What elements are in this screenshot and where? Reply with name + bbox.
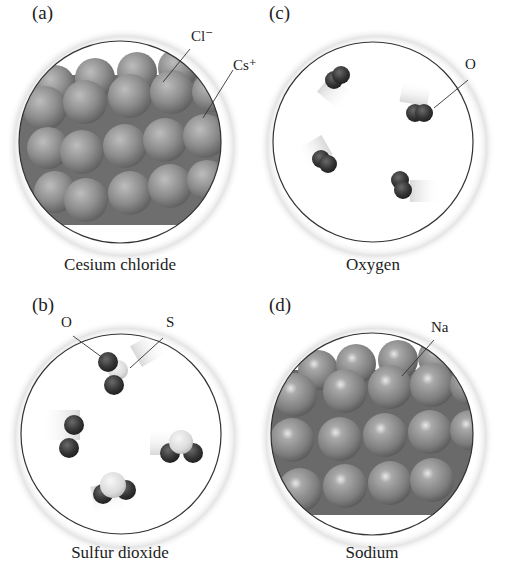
panel-c-letter: (c) <box>269 2 290 24</box>
label-cesium-ion: Cs⁺ <box>233 56 257 74</box>
panel-d-letter: (d) <box>269 294 291 316</box>
caption-oxygen: Oxygen <box>263 255 483 275</box>
label-chloride-ion: Cl⁻ <box>191 27 213 45</box>
caption-cesium-chloride: Cesium chloride <box>10 255 230 275</box>
oxygen-circle <box>273 42 473 242</box>
panel-a-letter: (a) <box>32 2 53 24</box>
panel-b-letter: (b) <box>32 294 54 316</box>
label-oxygen-in-so2: O <box>61 314 72 331</box>
label-sodium-atom: Na <box>431 319 449 336</box>
label-sulfur-atom: S <box>166 314 174 331</box>
caption-sodium: Sodium <box>262 543 482 563</box>
matter-particles-figure <box>0 0 507 568</box>
label-oxygen-atom: O <box>465 56 476 73</box>
caption-sulfur-dioxide: Sulfur dioxide <box>10 543 230 563</box>
